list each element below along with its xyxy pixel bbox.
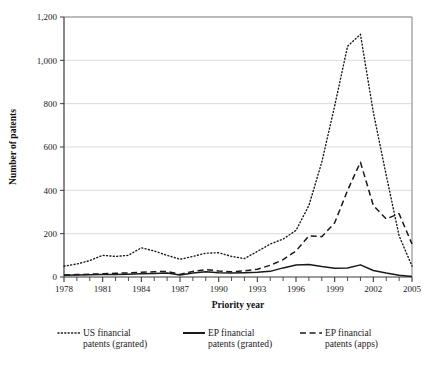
legend-label-1-line1: EP financial: [208, 328, 255, 338]
x-tick-label: 1999: [326, 284, 345, 294]
y-axis-title: Number of patents: [8, 109, 18, 185]
x-tick-label: 2005: [403, 284, 422, 294]
x-tick-label: 1987: [171, 284, 190, 294]
y-tick-label: 800: [44, 99, 58, 109]
y-tick-label: 1,200: [37, 12, 58, 22]
y-tick-label: 200: [44, 229, 58, 239]
legend-label-0-line1: US financial: [83, 328, 131, 338]
figure-container: 02004006008001,0001,20019781981198419871…: [0, 0, 429, 366]
legend-label-2-line1: EP financial: [325, 328, 372, 338]
y-tick-label: 1,000: [37, 56, 58, 66]
y-tick-label: 0: [53, 272, 58, 282]
legend-label-2-line2: patents (apps): [325, 339, 378, 350]
x-tick-label: 1993: [248, 284, 267, 294]
x-tick-label: 1978: [55, 284, 74, 294]
x-tick-label: 1990: [210, 284, 229, 294]
x-tick-label: 2002: [364, 284, 382, 294]
x-tick-label: 1996: [287, 284, 306, 294]
legend-label-0-line2: patents (granted): [83, 339, 147, 350]
y-tick-label: 400: [44, 186, 58, 196]
x-tick-label: 1981: [94, 284, 112, 294]
patents-line-chart: 02004006008001,0001,20019781981198419871…: [0, 0, 429, 366]
legend-label-1-line2: patents (granted): [208, 339, 272, 350]
x-tick-label: 1984: [132, 284, 151, 294]
series-line-solid: [64, 264, 412, 276]
x-axis-title: Priority year: [212, 300, 265, 310]
series-line-dotted: [64, 34, 412, 266]
y-tick-label: 600: [44, 142, 58, 152]
